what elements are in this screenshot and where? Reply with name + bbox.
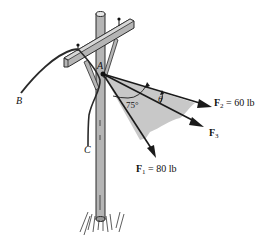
F3-arrowhead	[189, 117, 204, 127]
label-point-C: C	[84, 145, 91, 155]
F1-arrowhead	[147, 145, 156, 158]
label-F2: F2 = 60 lb	[214, 98, 255, 110]
label-F1: F1 = 80 lb	[136, 164, 177, 176]
label-point-A: A	[97, 61, 103, 71]
force-plane-shade	[103, 74, 195, 140]
F2-arrowhead	[197, 99, 212, 108]
label-F3: F3	[209, 128, 219, 140]
label-point-B: B	[16, 96, 22, 106]
point-A-node	[101, 72, 106, 77]
telephone-pole-force-diagram: A B C 75° θ F2 = 60 lb F3 F1 = 80 lb	[0, 0, 270, 244]
label-angle-75: 75°	[126, 101, 139, 110]
label-angle-theta: θ	[158, 95, 162, 104]
diagram-graphic	[0, 0, 270, 244]
